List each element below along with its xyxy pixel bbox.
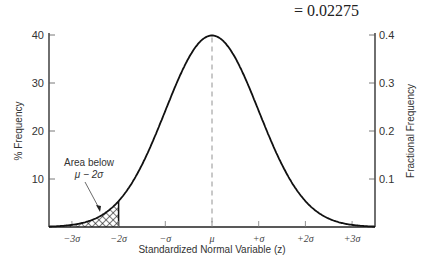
x-tick-label: −3σ [64,233,82,244]
left-y-tick-label: 20 [32,125,44,137]
right-y-tick-label: 0.3 [379,77,394,89]
x-axis-title: Standardized Normal Variable (z) [138,244,285,255]
normal-distribution-chart: 102030400.10.20.30.4−3σ−2σ−σμ+σ+2σ+3σSta… [0,0,430,272]
x-tick-label: +σ [253,233,266,244]
left-y-tick-label: 40 [32,29,44,41]
left-y-tick-label: 30 [32,77,44,89]
left-y-axis-title: % Frequency [13,102,24,161]
right-y-axis-title: Fractional Frequency [405,84,416,178]
right-y-tick-label: 0.1 [379,173,394,185]
x-tick-label: +2σ [297,233,315,244]
annotation-line-2: μ − 2σ [74,169,104,180]
x-tick-label: −σ [159,233,172,244]
left-y-tick-label: 10 [32,173,44,185]
right-y-tick-label: 0.4 [379,29,394,41]
annotation-line-1: Area below [64,157,115,168]
right-y-tick-label: 0.2 [379,125,394,137]
area-annotation: Area belowμ − 2σ [64,157,115,212]
axis-labels: 102030400.10.20.30.4−3σ−2σ−σμ+σ+2σ+3σSta… [13,29,416,255]
x-tick-label: −2σ [110,233,128,244]
arrow-head-icon [96,205,101,212]
x-tick-label: +3σ [344,233,362,244]
chart-axes [49,33,375,227]
x-tick-label: μ [208,233,214,244]
